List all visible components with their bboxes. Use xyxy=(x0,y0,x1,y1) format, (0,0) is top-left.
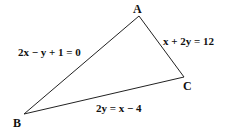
equation-ac: x + 2y = 12 xyxy=(163,35,215,47)
vertex-label-a: A xyxy=(133,2,142,16)
triangle-diagram: A B C 2x − y + 1 = 0 x + 2y = 12 2y = x … xyxy=(0,0,231,135)
side-ab xyxy=(24,16,139,114)
vertex-label-b: B xyxy=(13,116,21,130)
equation-ab: 2x − y + 1 = 0 xyxy=(18,46,81,58)
equation-bc: 2y = x − 4 xyxy=(96,102,142,114)
vertex-label-c: C xyxy=(183,79,192,93)
